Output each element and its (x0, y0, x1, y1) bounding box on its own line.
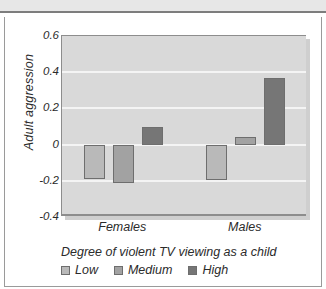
y-axis-tick-label: 0.6 (43, 29, 59, 41)
figure-header-band (0, 0, 326, 13)
x-axis-category-label: Males (228, 220, 261, 234)
legend-item-medium[interactable]: Medium (114, 263, 172, 277)
legend-item-label: Low (75, 263, 98, 277)
plot-shadow-right (306, 39, 310, 220)
legend-item-label: High (202, 263, 228, 277)
y-axis-tick-label: -0.4 (39, 210, 59, 222)
x-axis-category-label: Females (98, 220, 146, 234)
legend-item-label: Medium (128, 263, 172, 277)
bar-males-high (264, 78, 285, 145)
legend-items: LowMediumHigh (61, 263, 316, 277)
x-axis-category-labels: FemalesMales (61, 220, 306, 238)
gridline (62, 71, 306, 73)
legend: Degree of violent TV viewing as a child … (61, 245, 316, 277)
legend-item-high[interactable]: High (188, 263, 228, 277)
plot-area (61, 35, 306, 216)
y-axis-tick-label: 0.2 (43, 101, 59, 113)
gridline (62, 180, 306, 182)
y-axis-tick-labels: 0.60.40.20-0.2-0.4 (27, 35, 59, 215)
bar-females-medium (113, 145, 134, 183)
figure-frame: Adult aggression 0.60.40.20-0.2-0.4 Fema… (4, 17, 322, 287)
bar-males-medium (235, 137, 256, 144)
bar-males-low (206, 145, 227, 180)
legend-swatch-icon (61, 266, 70, 275)
y-axis-tick-label: 0 (53, 138, 59, 150)
y-axis-tick-label: -0.2 (39, 174, 59, 186)
bar-females-high (142, 127, 163, 145)
bar-females-low (84, 145, 105, 179)
y-axis-tick-label: 0.4 (43, 65, 59, 77)
legend-item-low[interactable]: Low (61, 263, 98, 277)
legend-swatch-icon (114, 266, 123, 275)
legend-title: Degree of violent TV viewing as a child (61, 245, 316, 259)
figure-container: Adult aggression 0.60.40.20-0.2-0.4 Fema… (0, 0, 326, 289)
legend-swatch-icon (188, 266, 197, 275)
